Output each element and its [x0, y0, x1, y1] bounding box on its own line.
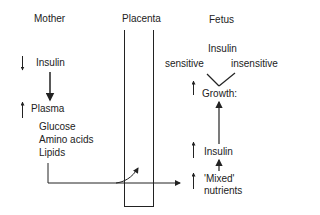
insulin-sensitive-label: sensitive: [165, 58, 204, 70]
nutrient-lipids: Lipids: [39, 147, 65, 159]
plasma-label: Plasma: [31, 103, 64, 115]
fetus-insulin-label: Insulin: [204, 146, 233, 158]
growth-branch-lines: [207, 73, 235, 86]
nutrient-amino-acids: Amino acids: [39, 134, 93, 146]
mother-insulin-label: Insulin: [36, 57, 65, 69]
placenta-box: [125, 30, 154, 207]
mixed-nutrients-label-line1: 'Mixed': [204, 173, 235, 185]
growth-label: Growth:: [202, 88, 237, 100]
fetus-insulin-top-label: Insulin: [208, 43, 237, 55]
nutrient-glucose: Glucose: [39, 121, 76, 133]
placenta-heading: Placenta: [122, 13, 161, 25]
mother-heading: Mother: [34, 13, 65, 25]
mixed-nutrients-label-line2: nutrients: [204, 185, 242, 197]
insulin-insensitive-label: insensitive: [231, 58, 278, 70]
nutrient-transfer-arrow: [48, 163, 180, 183]
fetus-heading: Fetus: [209, 14, 234, 26]
